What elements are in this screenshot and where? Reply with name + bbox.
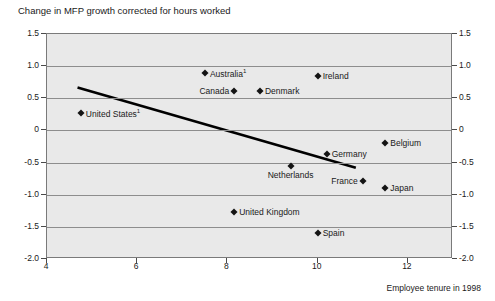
y-axis-tick-mark: [452, 258, 457, 259]
y-axis-tick-mark: [41, 194, 46, 195]
y-axis-tick-label: 1.0: [27, 61, 39, 70]
y-axis-tick-mark: [452, 97, 457, 98]
data-point-label-germany: Germany: [332, 150, 367, 159]
y-axis-tick-mark: [452, 226, 457, 227]
chart-container: Change in MFP growth corrected for hours…: [0, 0, 495, 301]
data-point-label-united-states: United States1: [86, 108, 140, 118]
chart-title: Change in MFP growth corrected for hours…: [18, 5, 231, 16]
data-point-label-united-kingdom: United Kingdom: [239, 208, 299, 217]
data-point-label-canada: Canada: [199, 86, 229, 95]
gridline-y: [47, 130, 451, 131]
x-axis-tick-label: 4: [44, 262, 49, 271]
x-axis-title: Employee tenure in 1998: [386, 283, 481, 293]
y-axis-tick-mark: [41, 33, 46, 34]
y-axis-tick-label: -1.0: [459, 190, 474, 199]
footnote-marker: 1: [243, 67, 246, 73]
plot-inner: Australia1IrelandCanadaDenmarkUnited Sta…: [47, 34, 451, 257]
gridline-y: [47, 66, 451, 67]
y-axis-tick-label: 0.5: [27, 93, 39, 102]
x-axis-tick-label: 12: [402, 262, 411, 271]
y-axis-tick-label: -0.5: [459, 158, 474, 167]
y-axis-tick-label: 1.0: [459, 61, 471, 70]
y-axis-tick-label: -2.0: [24, 254, 39, 263]
y-axis-tick-mark: [41, 129, 46, 130]
data-point-label-australia: Australia1: [210, 67, 246, 77]
y-axis-tick-label: -0.5: [24, 158, 39, 167]
y-axis-tick-label: -1.0: [24, 190, 39, 199]
x-axis-tick-label: 6: [134, 262, 139, 271]
data-point-label-netherlands: Netherlands: [268, 171, 314, 180]
gridline-y: [47, 163, 451, 164]
y-axis-tick-label: 0.5: [459, 93, 471, 102]
data-point-label-belgium: Belgium: [390, 139, 421, 148]
y-axis-tick-mark: [452, 194, 457, 195]
data-point-label-france: France: [331, 176, 357, 185]
y-axis-tick-label: 0: [459, 125, 464, 134]
y-axis-tick-mark: [452, 65, 457, 66]
x-axis-tick-label: 10: [312, 262, 321, 271]
y-axis-tick-mark: [452, 33, 457, 34]
y-axis-tick-label: 1.5: [459, 29, 471, 38]
y-axis-tick-mark: [452, 129, 457, 130]
y-axis-tick-label: 0: [34, 125, 39, 134]
data-point-label-spain: Spain: [323, 229, 345, 238]
gridline-y: [47, 195, 451, 196]
y-axis-tick-mark: [41, 226, 46, 227]
data-point-label-ireland: Ireland: [323, 72, 349, 81]
plot-area: Australia1IrelandCanadaDenmarkUnited Sta…: [46, 33, 452, 258]
y-axis-tick-label: -1.5: [459, 222, 474, 231]
y-axis-tick-label: 1.5: [27, 29, 39, 38]
data-point-label-japan: Japan: [390, 184, 413, 193]
gridline-y: [47, 227, 451, 228]
x-axis-tick-label: 8: [224, 262, 229, 271]
y-axis-tick-label: -2.0: [459, 254, 474, 263]
footnote-marker: 1: [137, 108, 140, 114]
y-axis-tick-mark: [41, 162, 46, 163]
y-axis-tick-mark: [41, 65, 46, 66]
y-axis-tick-mark: [41, 97, 46, 98]
y-axis-tick-mark: [452, 162, 457, 163]
y-axis-tick-label: -1.5: [24, 222, 39, 231]
data-point-label-denmark: Denmark: [265, 86, 299, 95]
gridline-y: [47, 98, 451, 99]
